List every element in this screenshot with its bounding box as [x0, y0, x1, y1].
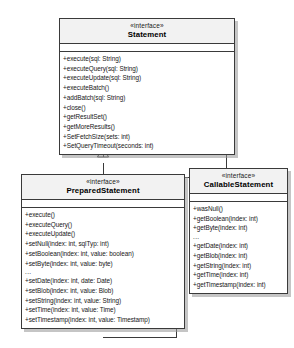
operation-item: +execute(): [22, 210, 184, 220]
uml-class-callablestatement[interactable]: «interface» CallableStatement +wasNull()…: [189, 168, 288, 294]
operation-item: +executeBatch(): [60, 83, 234, 93]
operation-item: +setString(index: int, value: String): [22, 296, 184, 306]
operation-ellipsis: ...: [190, 233, 287, 241]
operation-item: +getDate(index: int): [190, 241, 287, 251]
stereotype-label: «interface»: [192, 172, 285, 180]
class-title: PreparedStatement: [24, 186, 182, 195]
operation-item: +addBatch(sql: String): [60, 93, 234, 103]
operation-item: +close(): [60, 103, 234, 113]
class-title: Statement: [62, 30, 232, 39]
operation-item: +setByte(index: int, value: byte): [22, 259, 184, 269]
operation-ellipsis: ...: [22, 268, 184, 276]
operation-item: +setDate(index: int, date: Date): [22, 276, 184, 286]
operation-item: +setBlob(index: int, value: Blob): [22, 286, 184, 296]
operation-item: +executeQuery(sql: String): [60, 64, 234, 74]
class-header-preparedstatement: «interface» PreparedStatement: [22, 175, 184, 200]
uml-class-statement[interactable]: «interface» Statement +execute(sql: Stri…: [59, 18, 235, 155]
operation-item: +getBlob(index: int): [190, 251, 287, 261]
class-header-statement: «interface» Statement: [60, 19, 234, 44]
attribute-compartment: [22, 200, 184, 208]
operation-compartment-statement: +execute(sql: String) +executeQuery(sql:…: [60, 52, 234, 154]
operation-item: +getTimestamp(index: int): [190, 280, 287, 290]
uml-class-preparedstatement[interactable]: «interface» PreparedStatement +execute()…: [21, 174, 185, 329]
operation-compartment-preparedstatement: +execute() +executeQuery() +executeUpdat…: [22, 208, 184, 328]
operation-item: +setNull(index: int, sqlTyp: int): [22, 239, 184, 249]
operation-item: +getMoreResults(): [60, 122, 234, 132]
operation-item: +SetQueryTimeout(seconds: int): [60, 141, 234, 151]
operation-item: +getTime(index: int): [190, 270, 287, 280]
operation-item: +executeUpdate(sql: String): [60, 73, 234, 83]
diagram-canvas: «interface» Statement +execute(sql: Stri…: [0, 0, 294, 348]
stereotype-label: «interface»: [24, 178, 182, 186]
operation-item: +getByte(index: int): [190, 223, 287, 233]
attribute-compartment: [60, 44, 234, 52]
operation-item: +setTime(index: int, value: Time): [22, 305, 184, 315]
operation-item: +wasNull(): [190, 204, 287, 214]
operation-item: +getResultSet(): [60, 112, 234, 122]
operation-item: +setBoolean(index: int, value: boolean): [22, 249, 184, 259]
stereotype-label: «interface»: [62, 22, 232, 30]
operation-item: +SetFetchSize(sets: int): [60, 132, 234, 142]
operation-compartment-callablestatement: +wasNull() +getBoolean(index: int) +getB…: [190, 202, 287, 293]
attribute-compartment: [190, 194, 287, 202]
operation-item: +execute(sql: String): [60, 54, 234, 64]
operation-item: +executeQuery(): [22, 220, 184, 230]
operation-item: +getBoolean(index: int): [190, 214, 287, 224]
class-header-callablestatement: «interface» CallableStatement: [190, 169, 287, 194]
operation-item: +executeUpdate(): [22, 229, 184, 239]
class-title: CallableStatement: [192, 180, 285, 189]
operation-item: +setTimestamp(index: int, value: Timesta…: [22, 315, 184, 325]
operation-item: +getString(index: int): [190, 261, 287, 271]
